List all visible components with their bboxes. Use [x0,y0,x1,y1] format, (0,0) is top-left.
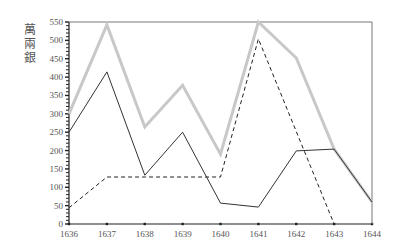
y-tick-label: 500 [50,35,64,45]
y-label-char: 兩 [24,37,36,51]
y-label-char: 萬 [24,23,36,37]
y-tick-label: 250 [50,127,64,137]
y-label-char: 銀 [24,51,36,65]
line-chart: 萬兩銀 050100150200250300350400450500550 16… [0,0,396,252]
y-tick-label: 150 [50,164,64,174]
series-series-dashed [69,39,334,224]
y-axis-label: 萬兩銀 [24,23,36,65]
series-series-solid [69,72,372,207]
y-tick-label: 0 [59,219,64,229]
plot-frame [69,22,372,224]
y-tick-label: 300 [50,109,64,119]
y-tick-label: 200 [50,146,64,156]
x-tick-label: 1642 [287,229,305,239]
x-tick-label: 1643 [325,229,344,239]
x-tick-label: 1636 [60,229,79,239]
x-tick-label: 1641 [249,229,267,239]
y-tick-label: 450 [50,54,64,64]
x-tick-label: 1639 [174,229,193,239]
x-axis-ticks: 163616371638163916401641164216431644 [60,223,382,239]
y-tick-label: 550 [50,17,64,27]
y-tick-label: 50 [54,201,64,211]
x-tick-label: 1638 [136,229,155,239]
y-tick-label: 400 [50,72,64,82]
y-tick-label: 350 [50,90,64,100]
y-tick-label: 100 [50,182,64,192]
x-tick-label: 1644 [363,229,382,239]
series-total [69,22,372,202]
series-lines [69,22,372,224]
x-tick-label: 1637 [98,229,117,239]
x-tick-label: 1640 [212,229,231,239]
y-axis-ticks: 050100150200250300350400450500550 [50,17,70,229]
